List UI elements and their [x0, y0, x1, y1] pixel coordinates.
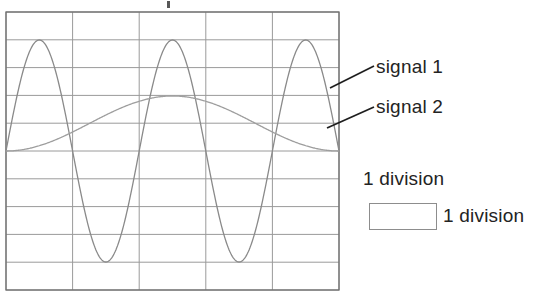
graticule-horizontal-lines	[6, 12, 339, 290]
legend-caption-vertical-division: 1 division	[363, 168, 444, 190]
figure-canvas: signal 1 signal 2 1 division 1 division	[0, 0, 537, 296]
legend-division-box	[369, 203, 437, 230]
legend-caption-horizontal-division: 1 division	[443, 205, 524, 227]
leader-line-signal-1	[330, 66, 374, 88]
label-signal-1: signal 1	[376, 56, 443, 78]
oscilloscope-display	[0, 0, 537, 296]
label-signal-2: signal 2	[376, 96, 443, 118]
leader-line-signal-2	[327, 107, 374, 128]
